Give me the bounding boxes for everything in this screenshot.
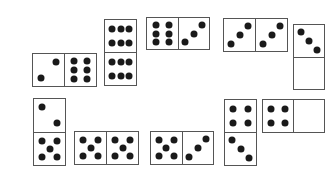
- domino-half-0: [294, 57, 324, 90]
- pip-dot: [277, 23, 284, 30]
- domino-half-6: [105, 52, 136, 85]
- domino-6-6[interactable]: [104, 19, 137, 86]
- pip-dot: [165, 21, 172, 28]
- domino-half-6: [64, 54, 96, 86]
- pip-dot: [87, 145, 94, 152]
- pip-dot: [117, 73, 124, 80]
- pip-dot: [84, 67, 91, 74]
- pip-dot: [108, 58, 115, 65]
- pip-dot: [152, 39, 159, 46]
- domino-half-3: [255, 19, 287, 51]
- pip-dot: [79, 153, 86, 160]
- pip-dot: [244, 120, 251, 127]
- pip-dot: [163, 145, 170, 152]
- domino-half-3: [225, 132, 256, 165]
- pip-dot: [127, 137, 134, 144]
- pip-dot: [46, 145, 53, 152]
- pip-dot: [127, 153, 134, 160]
- pip-dot: [245, 23, 252, 30]
- pip-dot: [281, 105, 288, 112]
- pip-dot: [108, 40, 115, 47]
- pip-dot: [182, 39, 189, 46]
- pip-dot: [165, 30, 172, 37]
- pip-dot: [297, 28, 304, 35]
- pip-dot: [246, 154, 253, 161]
- pip-dot: [95, 137, 102, 144]
- pip-dot: [126, 73, 133, 80]
- pip-dot: [244, 105, 251, 112]
- pip-dot: [117, 40, 124, 47]
- pip-dot: [117, 58, 124, 65]
- pip-dot: [281, 120, 288, 127]
- pip-dot: [165, 39, 172, 46]
- pip-dot: [37, 75, 44, 82]
- pip-dot: [111, 153, 118, 160]
- pip-dot: [268, 120, 275, 127]
- pip-dot: [152, 30, 159, 37]
- domino-half-2: [33, 54, 64, 86]
- domino-half-6: [105, 20, 136, 52]
- domino-half-3: [224, 19, 255, 51]
- domino-5-3[interactable]: [150, 131, 214, 165]
- pip-dot: [54, 120, 61, 127]
- pip-dot: [95, 153, 102, 160]
- pip-dot: [194, 145, 201, 152]
- domino-4-0[interactable]: [262, 99, 325, 133]
- pip-dot: [84, 58, 91, 65]
- domino-half-3: [182, 132, 214, 164]
- domino-3-3[interactable]: [223, 18, 288, 52]
- domino-half-3: [294, 25, 324, 57]
- pip-dot: [70, 75, 77, 82]
- pip-dot: [259, 40, 266, 47]
- pip-dot: [108, 25, 115, 32]
- pip-dot: [170, 153, 177, 160]
- pip-dot: [268, 105, 275, 112]
- domino-4-3[interactable]: [224, 99, 257, 166]
- domino-half-4: [225, 100, 256, 132]
- pip-dot: [227, 40, 234, 47]
- pip-dot: [237, 146, 244, 153]
- domino-3-0[interactable]: [293, 24, 325, 90]
- pip-dot: [203, 136, 210, 143]
- domino-half-4: [263, 100, 293, 132]
- pip-dot: [152, 21, 159, 28]
- pip-dot: [117, 25, 124, 32]
- pip-dot: [228, 137, 235, 144]
- pip-dot: [126, 58, 133, 65]
- pip-dot: [170, 137, 177, 144]
- domino-half-3: [178, 18, 210, 49]
- pip-dot: [268, 32, 275, 39]
- domino-6-3[interactable]: [146, 17, 210, 50]
- domino-half-2: [34, 99, 65, 132]
- domino-2-5[interactable]: [33, 98, 66, 166]
- domino-half-5: [34, 132, 65, 166]
- pip-dot: [314, 46, 321, 53]
- domino-half-6: [147, 18, 178, 49]
- pip-dot: [155, 137, 162, 144]
- pip-dot: [306, 37, 313, 44]
- pip-dot: [79, 137, 86, 144]
- domino-half-5: [75, 132, 106, 164]
- pip-dot: [236, 32, 243, 39]
- domino-2-6[interactable]: [32, 53, 97, 87]
- pip-dot: [186, 153, 193, 160]
- domino-half-5: [151, 132, 182, 164]
- pip-dot: [126, 40, 133, 47]
- pip-dot: [190, 30, 197, 37]
- pip-dot: [38, 104, 45, 111]
- pip-dot: [119, 145, 126, 152]
- pip-dot: [108, 73, 115, 80]
- domino-5-5[interactable]: [74, 131, 139, 165]
- pip-dot: [54, 153, 61, 160]
- pip-dot: [38, 153, 45, 160]
- pip-dot: [70, 58, 77, 65]
- pip-dot: [38, 137, 45, 144]
- pip-dot: [199, 21, 206, 28]
- pip-dot: [53, 59, 60, 66]
- pip-dot: [230, 105, 237, 112]
- pip-dot: [111, 137, 118, 144]
- pip-dot: [54, 137, 61, 144]
- pip-dot: [84, 75, 91, 82]
- pip-dot: [126, 25, 133, 32]
- pip-dot: [155, 153, 162, 160]
